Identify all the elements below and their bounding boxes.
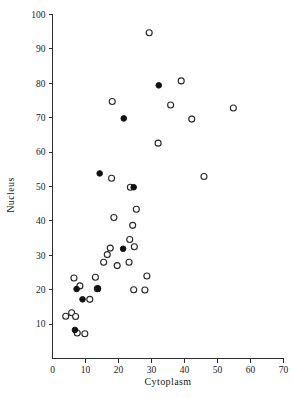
data-point-filled [156, 83, 162, 89]
data-point-filled [121, 116, 127, 122]
data-point-open [133, 206, 139, 212]
x-tick-label: 70 [279, 365, 289, 375]
data-point-open [92, 274, 98, 280]
data-point-open [109, 175, 115, 181]
y-tick-label: 80 [36, 79, 46, 89]
plot-axes [53, 15, 284, 359]
data-point-open [155, 140, 161, 146]
data-point-open [73, 314, 79, 320]
x-tick-label: 40 [180, 365, 190, 375]
y-tick-label: 70 [36, 113, 46, 123]
x-tick-label: 30 [147, 365, 157, 375]
data-point-filled [97, 171, 103, 177]
y-tick-label: 50 [36, 182, 46, 192]
data-point-open [109, 99, 115, 105]
x-axis-title: Cytoplasm [145, 376, 192, 387]
data-point-open [178, 78, 184, 84]
data-point-open [87, 296, 93, 302]
data-point-open [71, 275, 77, 281]
data-point-filled [80, 297, 86, 303]
y-tick-label: 10 [36, 319, 46, 329]
data-points-open [63, 30, 237, 337]
y-tick-label: 40 [36, 216, 46, 226]
data-point-open [63, 313, 69, 319]
y-tick-label: 20 [36, 285, 46, 295]
data-point-open [131, 244, 137, 250]
data-point-open [104, 252, 110, 258]
data-point-open [168, 102, 174, 108]
data-point-open [130, 222, 136, 228]
y-tick-label: 30 [36, 251, 46, 261]
data-point-filled [74, 286, 80, 292]
y-axis-title: Nucleus [5, 177, 16, 213]
data-point-filled [72, 327, 78, 333]
data-point-open [126, 259, 132, 265]
data-point-open [142, 287, 148, 293]
scatter-plot-figure: 102030405060708090100 010203040506070 Cy… [0, 0, 293, 398]
data-point-open [189, 116, 195, 122]
x-axis-ticks: 010203040506070 [50, 359, 288, 375]
data-point-open [144, 273, 150, 279]
data-point-open [131, 287, 137, 293]
data-point-open [101, 259, 107, 265]
data-point-open [201, 174, 207, 180]
x-tick-label: 10 [81, 365, 91, 375]
data-point-open [114, 263, 120, 269]
y-tick-label: 60 [36, 147, 46, 157]
x-tick-label: 60 [246, 365, 256, 375]
data-point-filled [131, 184, 137, 190]
x-tick-label: 50 [213, 365, 223, 375]
y-tick-label: 100 [31, 10, 46, 20]
data-point-open [230, 105, 236, 111]
x-tick-label: 0 [50, 365, 55, 375]
y-tick-label: 90 [36, 44, 46, 54]
data-points-filled [72, 83, 161, 333]
data-point-open [127, 236, 133, 242]
x-tick-label: 20 [114, 365, 124, 375]
data-point-filled [95, 286, 101, 292]
data-point-open [107, 245, 113, 251]
data-point-open [146, 30, 152, 36]
data-point-filled [120, 246, 126, 252]
data-point-open [111, 214, 117, 220]
data-point-open [82, 331, 88, 337]
y-axis-ticks: 102030405060708090100 [31, 10, 52, 330]
